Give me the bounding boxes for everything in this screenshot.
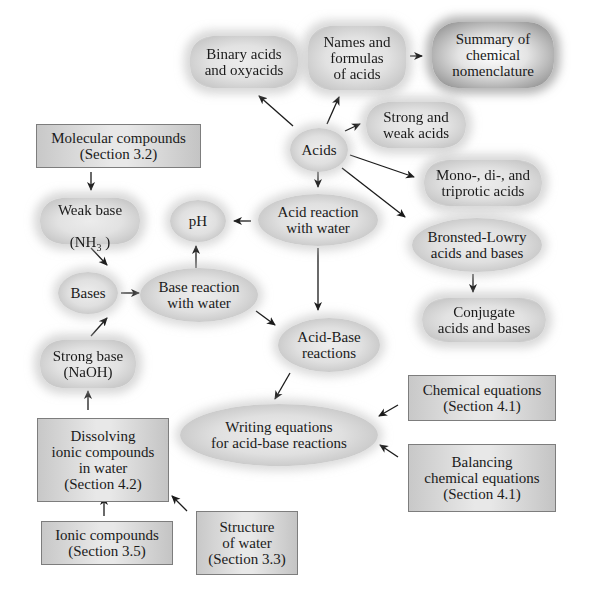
node-strong-weak-acids: Strong and weak acids	[366, 102, 466, 148]
node-chemical-equations: Chemical equations (Section 4.1)	[408, 375, 556, 421]
node-weak-base: Weak base (NH3 )	[40, 198, 140, 244]
node-balancing-equations: Balancing chemical equations (Section 4.…	[408, 444, 556, 512]
weak-base-formula: (NH3 )	[70, 234, 110, 250]
arrow-structure-to-dissolving	[172, 496, 187, 511]
node-conjugate: Conjugate acids and bases	[422, 298, 546, 342]
arrow-base-reaction-to-acid-base	[256, 311, 275, 325]
node-dissolving-ionic: Dissolving ionic compounds in water (Sec…	[37, 418, 169, 502]
node-ph: pH	[170, 200, 226, 242]
arrow-acids-to-binary-acids	[259, 96, 293, 126]
node-acid-base-reactions: Acid-Base reactions	[278, 318, 380, 372]
arrow-acids-to-names	[327, 97, 339, 124]
arrow-acids-to-strong-weak	[345, 124, 360, 131]
node-bronsted-lowry: Bronsted-Lowry acids and bases	[412, 218, 542, 272]
node-acid-reaction-water: Acid reaction with water	[258, 194, 378, 246]
node-acids: Acids	[290, 128, 348, 172]
node-writing-equations: Writing equations for acid-base reaction…	[180, 404, 378, 466]
weak-base-label: Weak base	[58, 202, 122, 218]
node-names-formulas: Names and formulas of acids	[308, 26, 406, 90]
node-bases: Bases	[58, 272, 118, 314]
node-structure-water: Structure of water (Section 3.3)	[196, 511, 298, 575]
node-ionic-compounds: Ionic compounds (Section 3.5)	[41, 521, 173, 565]
node-mono-di-triprotic: Mono-, di-, and triprotic acids	[424, 160, 542, 206]
arrow-strong-base-to-bases	[91, 318, 107, 336]
arrow-balancing-to-writing	[380, 445, 398, 457]
node-base-reaction-water: Base reaction with water	[140, 268, 258, 322]
node-strong-base: Strong base (NaOH)	[40, 340, 136, 388]
arrow-chemical-eq-to-writing	[379, 405, 398, 416]
node-binary-acids: Binary acids and oxyacids	[190, 36, 298, 88]
arrow-acids-to-mono	[350, 155, 414, 177]
node-molecular-compounds: Molecular compounds (Section 3.2)	[36, 124, 201, 168]
node-summary-nomenclature: Summary of chemical nomenclature	[432, 22, 554, 88]
arrow-acid-base-to-writing	[275, 373, 290, 399]
